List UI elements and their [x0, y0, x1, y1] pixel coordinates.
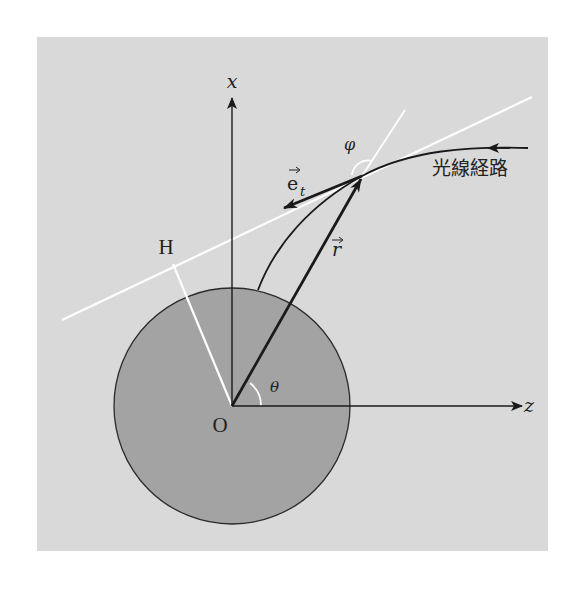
origin-label: O — [212, 413, 227, 437]
theta-label: θ — [270, 378, 279, 396]
svg-text:e: e — [287, 172, 298, 194]
foot-point-H-label: H — [158, 235, 173, 259]
x-axis-label: x — [227, 70, 238, 92]
svg-text:t: t — [300, 184, 306, 199]
phi-label: φ — [344, 135, 356, 154]
light-path-label: 光線経路 — [432, 157, 508, 179]
z-axis-label: z — [523, 394, 535, 416]
light-deflection-diagram: x z O H θ φ e t r 光線経路 — [0, 0, 576, 595]
